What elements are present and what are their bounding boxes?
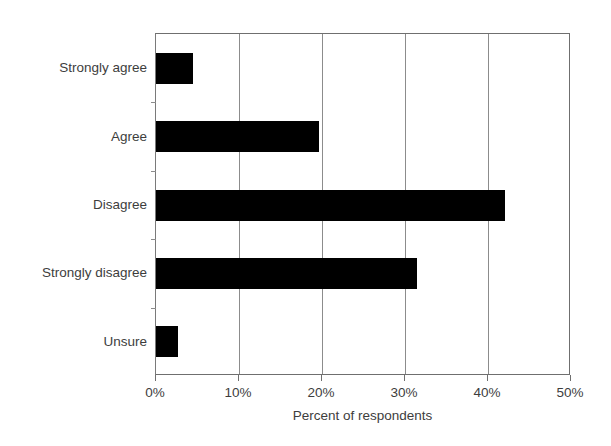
bar-row <box>156 189 569 221</box>
x-axis-tick <box>404 375 405 381</box>
x-axis-tick-label: 50% <box>556 385 583 400</box>
x-axis-tick-label: 30% <box>390 385 417 400</box>
y-axis-tick-label: Strongly agree <box>7 60 147 75</box>
y-axis-tick <box>151 171 156 172</box>
x-axis-tick <box>238 375 239 381</box>
x-axis-tick-label: 40% <box>473 385 500 400</box>
y-axis-tick-label: Disagree <box>7 197 147 212</box>
bar-row <box>156 257 569 289</box>
y-axis-labels: Strongly agreeAgreeDisagreeStrongly disa… <box>0 33 147 375</box>
bar-row <box>156 121 569 153</box>
bar-series <box>156 34 569 374</box>
y-axis-tick <box>151 239 156 240</box>
bar <box>156 326 178 357</box>
bar <box>156 121 319 152</box>
y-axis-tick <box>151 308 156 309</box>
x-axis-title: Percent of respondents <box>155 408 570 423</box>
x-axis-tick <box>155 375 156 381</box>
x-axis-tick <box>321 375 322 381</box>
x-axis-tick-label: 10% <box>224 385 251 400</box>
x-axis-tick-label: 0% <box>145 385 165 400</box>
y-axis-tick-label: Agree <box>7 128 147 143</box>
x-axis-tick-label: 20% <box>307 385 334 400</box>
y-axis-tick-label: Unsure <box>7 333 147 348</box>
bar-row <box>156 326 569 358</box>
y-axis-tick-label: Strongly disagree <box>7 265 147 280</box>
bar <box>156 190 505 221</box>
bar <box>156 258 417 289</box>
x-axis-tick <box>570 375 571 381</box>
plot-area <box>155 33 570 375</box>
x-axis-tick <box>487 375 488 381</box>
bar-row <box>156 52 569 84</box>
chart-page: Strongly agreeAgreeDisagreeStrongly disa… <box>0 0 611 446</box>
bar <box>156 53 193 84</box>
y-axis-tick <box>151 102 156 103</box>
